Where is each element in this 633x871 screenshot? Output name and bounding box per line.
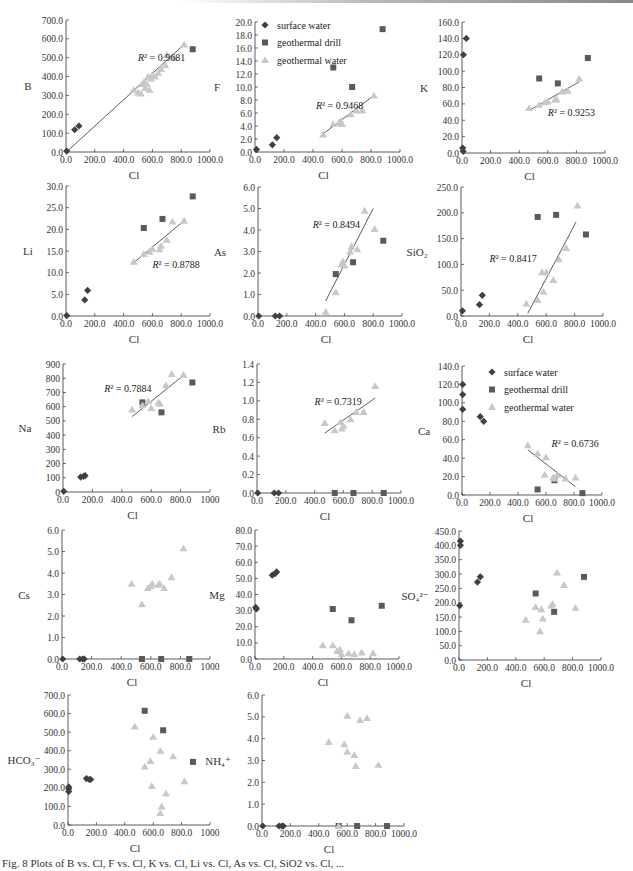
triangle-marker: [156, 809, 164, 816]
diamond-marker: [488, 368, 495, 375]
y-tick-label: 50.0: [235, 574, 252, 584]
y-tick-label: 30.0: [235, 606, 252, 616]
x-tick-label: 0.0: [453, 663, 465, 673]
x-tick-label: 200.0: [86, 828, 108, 838]
square-marker: [583, 231, 589, 237]
series-surface-water: [253, 134, 281, 153]
x-tick-label: 600.0: [140, 662, 162, 672]
y-tick-label: 1.0: [47, 633, 59, 643]
x-tick-label: 400.0: [304, 496, 326, 506]
x-tick-label: 400.0: [114, 828, 136, 838]
square-marker: [380, 238, 386, 244]
trendline: [132, 375, 183, 416]
y-tick-label: 20.0: [442, 472, 459, 482]
diamond-marker: [459, 391, 466, 398]
x-tick-label: 1000: [201, 495, 220, 505]
y-axis-label: B: [24, 80, 31, 92]
y-tick-label: 4.0: [247, 734, 259, 744]
r-squared-label: R² = 0.9468: [315, 100, 363, 111]
series-geothermal-drill: [190, 46, 196, 52]
x-axis-label: Cl: [127, 676, 137, 688]
x-tick-label: 800.0: [365, 829, 387, 839]
y-tick-label: 80.0: [442, 83, 459, 93]
triangle-marker: [128, 580, 136, 587]
y-tick-label: 200.0: [42, 110, 64, 120]
x-tick-label: 600.0: [143, 828, 165, 838]
square-marker: [141, 225, 147, 231]
x-tick-label: 600.0: [333, 496, 355, 506]
x-tick-label: 0.0: [56, 662, 68, 672]
series-surface-water: [252, 568, 280, 612]
square-marker: [350, 490, 356, 496]
triangle-marker: [157, 242, 165, 249]
y-tick-label: 1.0: [243, 290, 255, 300]
x-tick-label: 1000.0: [389, 319, 415, 329]
triangle-marker: [149, 733, 157, 740]
scatter-panel-f: 0.02.04.06.08.010.012.014.016.018.020.00…: [214, 18, 413, 182]
x-tick-label: 200.0: [479, 319, 501, 329]
diamond-marker: [269, 141, 276, 148]
x-tick-label: 600.0: [337, 829, 359, 839]
triangle-marker: [130, 258, 138, 265]
triangle-marker: [180, 371, 188, 378]
series-geothermal-drill: [330, 603, 385, 624]
triangle-marker: [549, 276, 557, 283]
diamond-marker: [479, 292, 486, 299]
x-axis-label: Cl: [523, 512, 533, 524]
y-tick-label: 80.0: [442, 417, 459, 427]
triangle-marker: [347, 415, 355, 422]
x-tick-label: 1000.0: [197, 319, 223, 329]
y-tick-label: 100.0: [438, 67, 460, 77]
x-axis-label: Cl: [324, 843, 334, 855]
series-geothermal-drill: [535, 212, 589, 238]
triangle-marker: [329, 641, 337, 648]
triangle-marker: [325, 738, 333, 745]
triangle-marker: [131, 723, 139, 730]
x-tick-label: 400.0: [505, 663, 527, 673]
series-surface-water: [65, 775, 94, 795]
y-tick-label: 8.0: [240, 96, 252, 106]
y-axis-label: Mg: [209, 589, 225, 601]
triangle-marker: [162, 382, 170, 389]
series-geothermal-drill: [141, 193, 196, 231]
square-marker: [379, 603, 385, 609]
scatter-panel-mg: 0.010.020.030.040.050.060.070.080.00.020…: [209, 526, 412, 689]
y-tick-label: 160.0: [438, 18, 460, 28]
legend: surface watergeothermal drillgeothermal …: [261, 20, 347, 66]
x-tick-label: 200.0: [275, 496, 297, 506]
y-axis-label: F: [214, 81, 220, 93]
x-tick-label: 200.0: [479, 498, 501, 508]
triangle-marker: [571, 474, 579, 481]
triangle-marker: [345, 650, 353, 657]
x-tick-label: 200.0: [273, 155, 295, 165]
y-tick-label: 60.0: [235, 558, 252, 568]
x-tick-label: 1000.0: [592, 156, 618, 166]
square-marker: [350, 259, 356, 265]
y-tick-label: 150.0: [437, 234, 459, 244]
triangle-marker: [148, 580, 156, 587]
scatter-panel-b: 0.0100.0200.0300.0400.0500.0600.0700.00.…: [24, 16, 223, 182]
y-tick-label: 1.2: [242, 378, 254, 388]
triangle-marker: [146, 757, 154, 764]
triangle-marker: [360, 408, 368, 415]
y-tick-label: 200.0: [435, 598, 457, 608]
y-tick-label: 15.0: [46, 247, 63, 257]
square-marker: [333, 271, 339, 277]
y-tick-label: 300.0: [42, 91, 64, 101]
diamond-marker: [81, 296, 88, 303]
y-tick-label: 100.0: [435, 627, 457, 637]
y-tick-label: 6.0: [247, 691, 259, 701]
y-tick-label: 5.0: [247, 712, 259, 722]
x-tick-label: 0.0: [60, 319, 72, 329]
y-tick-label: 5.0: [243, 204, 255, 214]
y-tick-label: 5.0: [47, 547, 59, 557]
y-tick-label: 50.0: [441, 286, 458, 296]
triangle-marker: [169, 752, 177, 759]
x-tick-label: 1000.0: [197, 155, 223, 165]
y-tick-label: 16.0: [235, 44, 252, 54]
x-tick-label: 800.0: [170, 662, 192, 672]
square-marker: [381, 490, 387, 496]
y-tick-label: 900: [46, 360, 61, 370]
triangle-marker: [573, 202, 581, 209]
y-tick-label: 5.0: [51, 290, 63, 300]
